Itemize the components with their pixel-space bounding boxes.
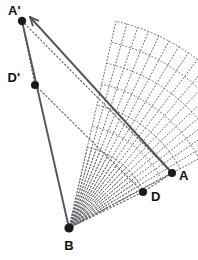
point-B [64, 223, 73, 232]
label-D-prime: D' [8, 70, 20, 85]
label-D: D [151, 189, 160, 204]
canvas-background [0, 0, 198, 260]
label-A: A [179, 168, 189, 183]
point-D [139, 188, 147, 196]
rotation-figure: A'D'BAD [0, 0, 198, 260]
point-A [168, 169, 176, 177]
label-A-prime: A' [8, 3, 20, 18]
label-B: B [64, 238, 73, 253]
geometry-canvas: A'D'BAD [0, 0, 198, 260]
point-A-prime [18, 17, 26, 25]
point-D-prime [31, 81, 39, 89]
